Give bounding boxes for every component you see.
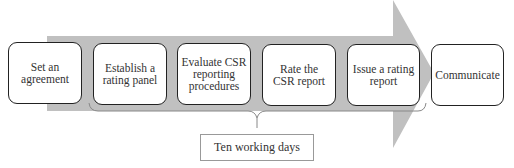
step-communicate: Communicate — [431, 44, 504, 106]
step-label: Issue a rating report — [353, 63, 415, 87]
step-rate-report: Rate the CSR report — [262, 44, 336, 106]
step-label: Communicate — [435, 69, 500, 81]
step-label: Rate the CSR report — [268, 63, 330, 87]
duration-text: Ten working days — [214, 140, 300, 155]
duration-label: Ten working days — [200, 134, 314, 161]
step-label: Evaluate CSR reporting procedures — [181, 56, 247, 92]
step-set-agreement: Set an agreement — [8, 42, 82, 104]
step-issue-report: Issue a rating report — [347, 44, 420, 106]
step-label: Establish a rating panel — [98, 62, 162, 86]
step-establish-panel: Establish a rating panel — [93, 43, 167, 105]
step-evaluate-procedures: Evaluate CSR reporting procedures — [177, 43, 251, 105]
step-label: Set an agreement — [17, 61, 73, 85]
